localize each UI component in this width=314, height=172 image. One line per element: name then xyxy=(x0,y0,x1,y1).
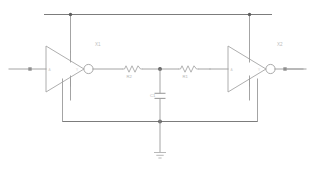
ground-symbol xyxy=(154,153,166,159)
capacitor-c1-label: C1 xyxy=(150,93,156,98)
rc-center-node xyxy=(158,67,162,152)
inverter-left[interactable]: A Y X1 xyxy=(30,42,122,93)
input-terminal-pad xyxy=(28,67,31,70)
inverter-left-input-pin-label: A xyxy=(49,68,52,72)
output-terminal-pad xyxy=(283,67,286,70)
inverter-left-bubble xyxy=(84,64,93,73)
schematic-drawing: A Y X1 A Y X2 R2 R1 xyxy=(0,0,314,172)
inverter-right[interactable]: A Y X2 xyxy=(210,42,303,93)
inverter-right-output-pin-label: Y xyxy=(258,68,261,72)
input-terminal[interactable] xyxy=(9,67,32,70)
power-rail-top xyxy=(44,13,272,52)
resistor-r2[interactable]: R2 xyxy=(122,66,160,79)
junction-dot-top-left xyxy=(69,13,72,16)
resistor-r2-label: R2 xyxy=(127,74,133,79)
resistor-r1[interactable]: R1 xyxy=(160,66,210,79)
capacitor-c1[interactable]: C1 xyxy=(150,93,166,98)
inverter-right-input-pin-label: A xyxy=(231,68,234,72)
schematic-canvas: A Y X1 A Y X2 R2 R1 xyxy=(0,0,314,172)
inverter-left-output-pin-label: Y xyxy=(76,68,79,72)
inverter-right-reference: X2 xyxy=(277,42,283,47)
inverter-left-reference: X1 xyxy=(95,42,101,47)
output-terminal[interactable] xyxy=(283,67,306,70)
junction-dot-top-right xyxy=(248,13,251,16)
resistor-r1-label: R1 xyxy=(183,74,189,79)
inverter-right-bubble xyxy=(266,64,275,73)
